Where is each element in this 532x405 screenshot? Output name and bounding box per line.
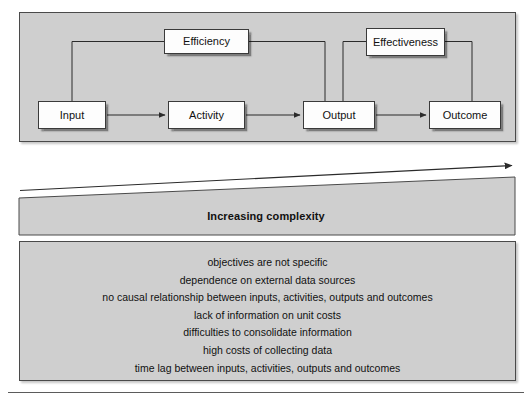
complexity-label: Increasing complexity — [0, 210, 532, 222]
issue-line: difficulties to consolidate information — [20, 324, 515, 342]
issue-line: time lag between inputs, activities, out… — [20, 360, 515, 378]
node-effectiveness-label: Effectiveness — [373, 37, 438, 48]
node-activity-label: Activity — [189, 110, 224, 121]
issue-line: lack of information on unit costs — [20, 307, 515, 325]
node-effectiveness: Effectiveness — [366, 28, 445, 56]
node-activity: Activity — [168, 101, 245, 129]
complexity-wedge-shape — [0, 150, 532, 242]
node-output: Output — [303, 101, 375, 129]
increasing-complexity-block: Increasing complexity — [0, 150, 532, 242]
node-outcome-label: Outcome — [443, 110, 488, 121]
node-outcome: Outcome — [429, 101, 501, 129]
complexity-wedge — [19, 177, 515, 235]
node-efficiency-label: Efficiency — [183, 36, 230, 47]
issue-line: no causal relationship between inputs, a… — [20, 289, 515, 307]
measurement-issues-panel: objectives are not specific dependence o… — [19, 241, 516, 381]
node-efficiency: Efficiency — [164, 29, 249, 54]
node-input-label: Input — [60, 110, 84, 121]
issue-line: objectives are not specific — [20, 254, 515, 272]
issue-line: dependence on external data sources — [20, 272, 515, 290]
issue-line: high costs of collecting data — [20, 342, 515, 360]
node-output-label: Output — [322, 110, 355, 121]
process-model-panel: Input Activity Output Outcome Efficiency… — [19, 12, 516, 142]
bottom-divider-rule — [8, 392, 524, 393]
node-input: Input — [38, 101, 106, 129]
